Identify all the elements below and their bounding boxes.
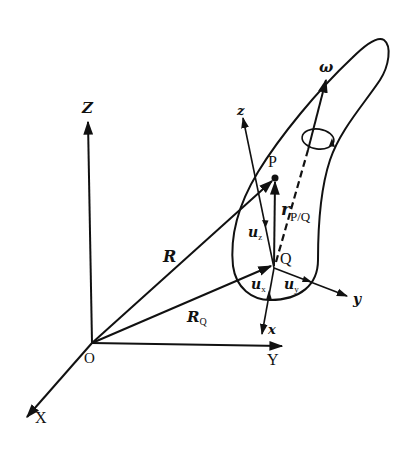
global-y-axis (92, 343, 282, 346)
label-z: z (236, 103, 245, 118)
label-X: X (35, 409, 47, 426)
global-z-axis (88, 122, 92, 343)
rotation-indicator (301, 127, 335, 151)
label-u-y: uy (284, 276, 299, 294)
label-x: x (267, 322, 276, 337)
vector-R-Q (92, 266, 271, 343)
label-y: y (352, 291, 362, 307)
label-u-x: ux (251, 276, 266, 294)
label-u-z: uz (248, 224, 262, 242)
label-Z: Z (81, 99, 94, 117)
label-Q: Q (280, 250, 292, 267)
label-Y: Y (267, 351, 279, 368)
omega-vector (308, 80, 326, 150)
label-P: P (268, 153, 277, 170)
u-x-arrowhead (266, 290, 272, 300)
vector-R (92, 181, 272, 343)
rigid-body-outline (232, 39, 388, 300)
label-R-Q: RQ (186, 308, 207, 327)
u-y-arrowhead (302, 276, 312, 282)
label-r-P-Q: rP/Q (281, 199, 311, 224)
u-z-arrowhead (262, 220, 269, 228)
label-O: O (84, 350, 95, 366)
label-R: R (162, 247, 176, 266)
vector-r-P-Q (274, 182, 275, 266)
rigid-body-diagram: Z Y X O z y x P Q ω R RQ rP/Q uz ux uy (0, 0, 400, 449)
point-P (272, 175, 279, 182)
label-omega: ω (319, 58, 333, 76)
global-x-axis (27, 343, 92, 417)
